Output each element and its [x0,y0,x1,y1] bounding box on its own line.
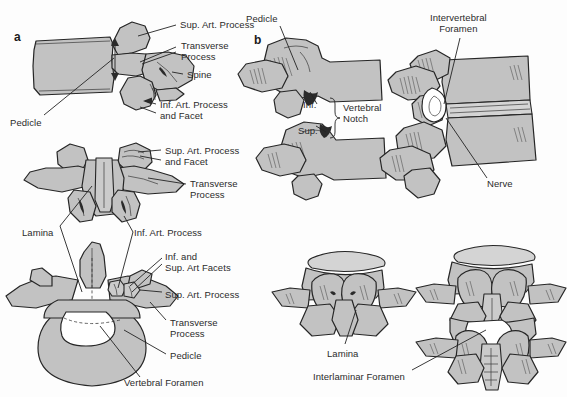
label-superior-notch: Sup. [298,126,318,137]
anatomy-illustration: .bone { fill:#c2c2c2; stroke:#262626; st… [0,0,567,397]
label-transverse-process-lateral: Transverse Process [181,41,229,62]
label-interlaminar-foramen: Interlaminar Foramen [313,372,405,383]
label-spine: Spine [187,70,212,81]
label-nerve: Nerve [487,179,513,190]
label-transverse-process-posterior: Transverse Process [190,179,238,200]
label-lamina-panel-b: Lamina [327,349,358,360]
panel-letter-b: b [254,33,261,47]
label-pedicle-panel-b: Pedicle [246,14,278,25]
label-vertebral-foramen: Vertebral Foramen [124,378,204,389]
vertebra-anatomy-figure: .bone { fill:#c2c2c2; stroke:#262626; st… [0,0,567,397]
label-sup-art-process-superior: Sup. Art. Process [165,290,239,301]
label-sup-art-process-lateral: Sup. Art. Process [180,20,254,31]
label-vertebral-notch: Vertebral Notch [343,103,381,124]
panel-b-posterior-vertebra-single [272,251,416,344]
label-sup-art-process-and-facet: Sup. Art. Process and Facet [165,146,239,167]
label-intervertebral-foramen: Intervertebral Foramen [430,13,487,34]
label-inf-art-process-posterior: Inf. Art. Process [134,228,202,239]
label-inferior-notch: Inf. [303,100,316,111]
panel-a-posterior-vertebra [24,143,186,232]
label-pedicle-superior: Pedicle [170,351,202,362]
label-pedicle-lateral: Pedicle [10,118,42,129]
label-inf-and-sup-art-facets: Inf. and Sup. Art Facets [165,252,231,273]
panel-a-superior-vertebra [6,226,178,386]
panel-letter-a: a [14,30,21,44]
label-lamina-posterior: Lamina [22,228,53,239]
panel-b-stacked-vertebrae [412,245,566,390]
label-transverse-process-superior: Transverse Process [170,318,218,339]
panel-b-intervertebral-foramen [380,38,536,198]
label-inf-art-process-and-facet: Inf. Art. Process and Facet [160,100,228,121]
